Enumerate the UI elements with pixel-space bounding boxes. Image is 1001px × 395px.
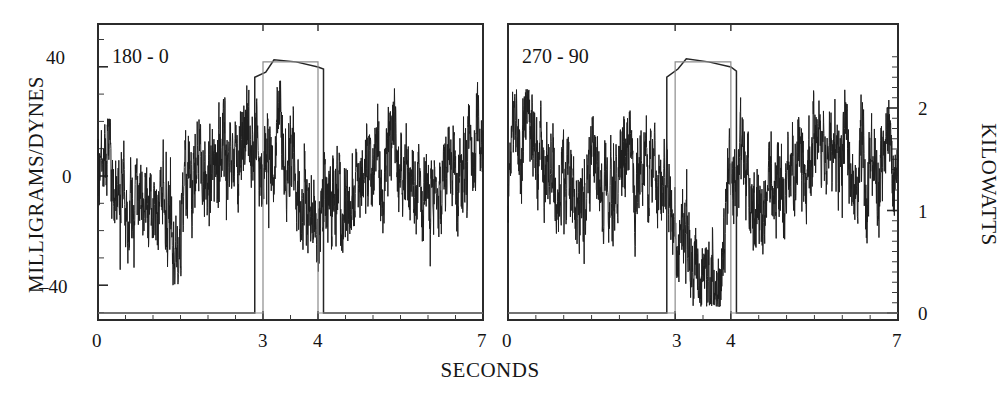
panel-left — [98, 24, 483, 320]
y-axis-title-right: KILOWATTS — [976, 65, 1001, 305]
panel-right — [508, 24, 898, 320]
